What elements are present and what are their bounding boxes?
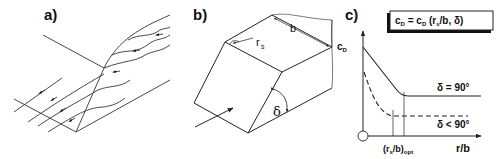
label-delta-90: δ = 90° bbox=[437, 82, 470, 93]
panel-c-label: c) bbox=[345, 6, 358, 23]
panel-a-label: a) bbox=[44, 6, 57, 23]
streamline bbox=[14, 78, 62, 112]
curve-delta-less-90 bbox=[364, 72, 468, 116]
flow-arrow-icon bbox=[157, 34, 163, 35]
formula-text: cD = cD (rs/b, δ) bbox=[395, 15, 463, 27]
panel-b-label: b) bbox=[193, 6, 207, 23]
origin-circle bbox=[358, 131, 368, 141]
flow-direction-arrow-icon bbox=[195, 108, 233, 127]
flow-arrow-icon bbox=[114, 71, 120, 72]
flow-arrow-icon bbox=[52, 97, 57, 100]
panel-a: a) bbox=[14, 6, 170, 132]
x-axis-label: r/b bbox=[456, 142, 470, 154]
radius-label-sub: s bbox=[261, 43, 265, 50]
angle-label: δ bbox=[273, 104, 281, 119]
block-front-face bbox=[194, 42, 282, 133]
plate-bottom-right-edge bbox=[76, 80, 170, 132]
radius-label: r bbox=[256, 36, 260, 48]
flow-arrow-icon bbox=[40, 90, 45, 93]
streamline bbox=[104, 45, 170, 68]
panel-c: c) cD = cD (rs/b, δ) cD r/b δ = 90° δ < … bbox=[337, 6, 493, 155]
dimension-b-label: b bbox=[290, 22, 296, 34]
y-axis-label: cD bbox=[337, 41, 348, 53]
optimum-label: (rs/b)opt bbox=[383, 144, 413, 155]
label-delta-less-90: δ < 90° bbox=[437, 119, 470, 130]
radius-arrow-icon bbox=[234, 38, 253, 43]
panel-b: b) b r s δ bbox=[193, 6, 333, 133]
block-top-face bbox=[225, 15, 332, 72]
dimension-b-arrow-icon bbox=[276, 19, 328, 46]
diagram-canvas: a) b) bbox=[0, 0, 497, 159]
flow-arrow-icon bbox=[61, 108, 66, 111]
separation-surface bbox=[104, 15, 170, 68]
plate-edge-upper bbox=[43, 35, 104, 68]
plate-edge-lower bbox=[14, 99, 76, 132]
streamline bbox=[28, 74, 104, 122]
streamline bbox=[48, 98, 125, 132]
